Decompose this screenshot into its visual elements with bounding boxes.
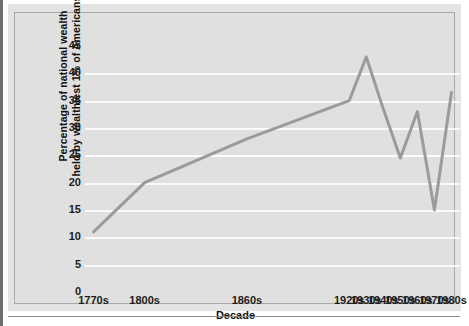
figure-bottom-rule	[8, 316, 460, 317]
x-axis-tick-label: 1980s	[436, 294, 467, 307]
chart-frame: Percentage of national wealth held by we…	[14, 12, 455, 304]
y-axis-tick-label: 45	[47, 40, 81, 51]
x-axis-tick-label: 1860s	[232, 294, 263, 307]
x-axis-tick-labels: 1770s1800s1860s1920s1930s1940s1950s1960s…	[15, 294, 456, 310]
y-axis-tick-label: 35	[47, 95, 81, 106]
y-axis-tick-label: 25	[47, 149, 81, 160]
x-axis-tick-label: 1770s	[78, 294, 109, 307]
y-axis-tick-label: 15	[47, 204, 81, 215]
data-series-line	[85, 46, 460, 292]
x-axis-title: Decade	[15, 309, 456, 321]
page-left-rule	[0, 0, 3, 326]
y-axis-tick-labels: 051015202530354045	[41, 46, 81, 292]
figure-root: Percentage of national wealth held by we…	[0, 0, 469, 326]
x-axis-tick-label: 1800s	[129, 294, 160, 307]
y-axis-tick-label: 10	[47, 231, 81, 242]
y-axis-tick-label: 40	[47, 67, 81, 78]
plot-area	[85, 46, 460, 292]
y-axis-tick-label: 20	[47, 177, 81, 188]
y-axis-tick-label: 5	[47, 259, 81, 270]
y-axis-tick-label: 30	[47, 122, 81, 133]
